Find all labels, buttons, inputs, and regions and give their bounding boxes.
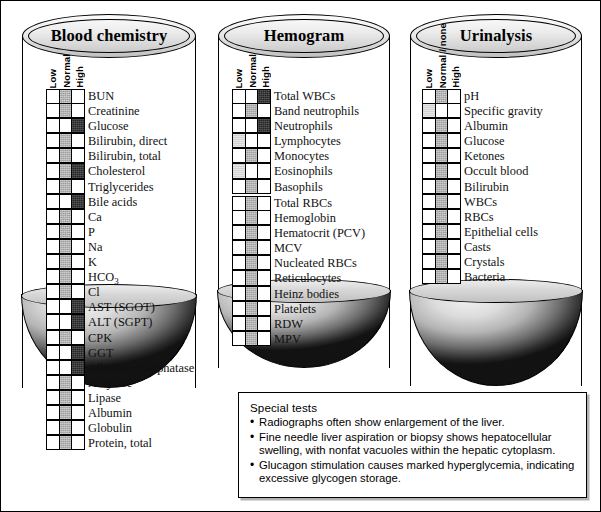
result-cell-high[interactable] [71,299,85,314]
result-row[interactable] [46,164,85,179]
result-row[interactable] [46,406,85,421]
result-cell-high[interactable] [71,103,85,118]
result-cell-normal-none[interactable] [435,254,449,269]
result-cell-high[interactable] [71,133,85,148]
result-cell-normal-none[interactable] [435,89,449,104]
result-cell-normal-none[interactable] [435,163,449,178]
result-cell-high[interactable] [447,103,461,118]
result-cell-normal[interactable] [59,390,73,405]
result-cell-high[interactable] [257,240,271,255]
result-cell-normal[interactable] [59,118,73,133]
result-cell-low[interactable] [422,269,436,284]
result-cell-low[interactable] [232,240,246,255]
result-cell-high[interactable] [71,194,85,209]
result-row[interactable] [422,240,461,255]
result-cell-low[interactable] [422,254,436,269]
result-row[interactable] [46,270,85,285]
result-cell-low[interactable] [46,314,60,329]
result-cell-low[interactable] [422,118,436,133]
result-cell-low[interactable] [232,133,246,148]
result-cell-low[interactable] [422,133,436,148]
result-row[interactable] [46,149,85,164]
result-cell-normal-none[interactable] [435,118,449,133]
result-cell-low[interactable] [422,194,436,209]
result-cell-low[interactable] [232,89,246,104]
result-cell-low[interactable] [46,89,60,104]
result-cell-normal[interactable] [59,360,73,375]
result-cell-high[interactable] [447,148,461,163]
result-cell-normal[interactable] [59,299,73,314]
result-cell-high[interactable] [71,118,85,133]
result-row[interactable] [46,285,85,300]
result-row[interactable] [232,317,271,332]
result-cell-high[interactable] [71,209,85,224]
result-cell-low[interactable] [232,255,246,270]
result-cell-high[interactable] [257,225,271,240]
result-row[interactable] [232,196,271,211]
result-cell-low[interactable] [46,254,60,269]
result-cell-low[interactable] [46,179,60,194]
result-cell-normal[interactable] [245,225,259,240]
result-cell-normal[interactable] [245,286,259,301]
result-cell-high[interactable] [257,163,271,178]
result-cell-normal[interactable] [59,194,73,209]
result-cell-normal[interactable] [245,118,259,133]
result-row[interactable] [232,104,271,119]
result-row[interactable] [46,134,85,149]
result-cell-high[interactable] [447,133,461,148]
result-cell-low[interactable] [46,390,60,405]
result-row[interactable] [422,180,461,195]
result-row[interactable] [232,287,271,302]
result-cell-high[interactable] [71,420,85,435]
result-cell-high[interactable] [447,239,461,254]
result-cell-low[interactable] [232,316,246,331]
result-cell-low[interactable] [46,269,60,284]
result-row[interactable] [46,255,85,270]
result-cell-high[interactable] [257,255,271,270]
result-cell-low[interactable] [46,405,60,420]
result-row[interactable] [46,361,85,376]
result-cell-normal-none[interactable] [435,179,449,194]
result-cell-high[interactable] [257,286,271,301]
result-row[interactable] [232,271,271,286]
result-cell-normal[interactable] [59,89,73,104]
result-cell-low[interactable] [46,420,60,435]
result-cell-low[interactable] [46,239,60,254]
result-cell-high[interactable] [257,179,271,194]
result-cell-high[interactable] [71,435,85,450]
result-cell-low[interactable] [422,163,436,178]
result-row[interactable] [232,302,271,317]
result-row[interactable] [232,89,271,104]
result-cell-high[interactable] [257,196,271,211]
result-cell-high[interactable] [447,89,461,104]
result-cell-low[interactable] [232,118,246,133]
result-cell-normal[interactable] [245,316,259,331]
result-cell-low[interactable] [46,360,60,375]
result-row[interactable] [46,104,85,119]
result-row[interactable] [232,180,271,195]
result-row[interactable] [422,164,461,179]
result-row[interactable] [422,104,461,119]
result-cell-normal[interactable] [245,148,259,163]
result-cell-low[interactable] [232,103,246,118]
result-cell-normal-none[interactable] [435,148,449,163]
result-row[interactable] [232,241,271,256]
result-cell-low[interactable] [46,148,60,163]
result-cell-normal[interactable] [59,179,73,194]
result-cell-high[interactable] [257,270,271,285]
result-cell-normal[interactable] [245,89,259,104]
result-cell-normal[interactable] [245,179,259,194]
result-cell-normal[interactable] [245,301,259,316]
result-row[interactable] [46,240,85,255]
result-cell-normal-none[interactable] [435,224,449,239]
result-cell-high[interactable] [447,118,461,133]
result-cell-high[interactable] [447,163,461,178]
result-cell-low[interactable] [422,179,436,194]
result-row[interactable] [422,225,461,240]
result-row[interactable] [422,195,461,210]
result-cell-low[interactable] [422,209,436,224]
result-cell-normal[interactable] [59,345,73,360]
result-cell-high[interactable] [71,239,85,254]
result-cell-normal-none[interactable] [435,103,449,118]
result-cell-normal[interactable] [59,148,73,163]
